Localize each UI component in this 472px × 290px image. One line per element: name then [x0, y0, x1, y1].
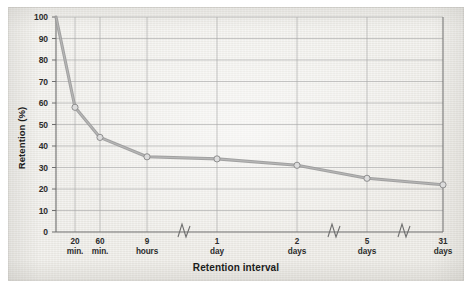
data-point-marker — [97, 134, 103, 140]
y-axis-title: Retention (%) — [16, 93, 27, 183]
x-tick-line1: 9 — [145, 237, 149, 246]
y-tick-label: 90 — [24, 34, 48, 44]
y-tick-label: 10 — [24, 206, 48, 216]
y-tick-label: 40 — [24, 141, 48, 151]
y-tick-label: 70 — [24, 77, 48, 87]
x-tick-label-5-days: 5 days — [339, 237, 395, 256]
data-point-marker — [214, 156, 220, 162]
data-point-marker — [144, 154, 150, 160]
figure-root: 100 90 80 70 60 50 40 30 20 10 0 20 min.… — [0, 0, 472, 290]
retention-line-chart: 100 90 80 70 60 50 40 30 20 10 0 20 min.… — [0, 0, 472, 290]
axis-break-icon — [398, 224, 410, 237]
y-tick-label: 0 — [24, 227, 48, 237]
x-tick-line2: day — [189, 247, 245, 257]
x-tick-line2: hours — [119, 247, 175, 257]
axis-break-icon — [328, 224, 340, 237]
x-tick-line2: days — [415, 247, 471, 257]
y-tick-label: 20 — [24, 184, 48, 194]
x-tick-label-9-hours: 9 hours — [119, 237, 175, 256]
x-tick-line1: 2 — [295, 237, 299, 246]
retention-series — [56, 17, 443, 185]
horizontal-gridlines — [56, 17, 443, 211]
x-tick-line1: 1 — [215, 237, 219, 246]
x-tick-line2: days — [339, 247, 395, 257]
retention-line — [56, 17, 443, 185]
y-tick-label: 100 — [24, 12, 48, 22]
x-tick-line1: 5 — [365, 237, 369, 246]
data-point-marker — [72, 104, 78, 110]
y-tick-label: 60 — [24, 98, 48, 108]
x-tick-line2: days — [269, 247, 325, 257]
x-tick-label-31-days: 31 days — [415, 237, 471, 256]
y-tick-label: 50 — [24, 120, 48, 130]
y-tick-label: 30 — [24, 163, 48, 173]
y-tick-label: 80 — [24, 55, 48, 65]
retention-line-highlight — [56, 17, 443, 185]
x-axis-title: Retention interval — [0, 262, 472, 273]
x-tick-line1: 60 — [96, 237, 105, 246]
x-tick-line1: 31 — [439, 237, 448, 246]
data-point-marker — [294, 162, 300, 168]
data-point-marker — [440, 182, 446, 188]
axis-break-marks — [178, 224, 410, 237]
x-tick-label-2-days: 2 days — [269, 237, 325, 256]
y-axis-tick-marks — [52, 17, 56, 232]
data-point-marker — [364, 175, 370, 181]
axis-break-icon — [178, 224, 190, 237]
x-tick-label-1-day: 1 day — [189, 237, 245, 256]
